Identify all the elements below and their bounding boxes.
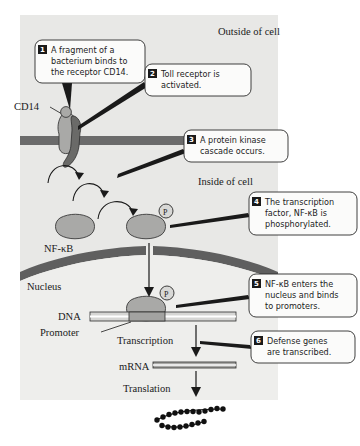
callout-5[interactable]: 5 NF-κB enters the nucleus and binds to … <box>249 274 357 317</box>
dna-label: DNA <box>58 311 81 322</box>
signaling-pathway-figure: Outside of cell Inside of cell Nucleus C… <box>0 0 360 446</box>
callout-2-number: 2 <box>150 70 155 78</box>
nfkb-label: NF-κB <box>44 243 73 254</box>
callout-2-line-1: Toll receptor is <box>160 69 220 79</box>
nucleus-label: Nucleus <box>27 281 61 292</box>
translation-label: Translation <box>123 383 171 394</box>
promoter-label: Promoter <box>40 327 80 338</box>
callout-2[interactable]: 2 Toll receptor is activated. <box>145 64 251 96</box>
callout-4-line-1: The transcription <box>264 197 334 207</box>
callout-6-number: 6 <box>256 337 261 345</box>
callout-1-line-2: bacterium binds to <box>51 56 127 66</box>
callout-3-line-2: cascade occurs. <box>200 146 265 156</box>
nfkb-protein-cytoplasm <box>56 214 95 239</box>
callout-6-line-1: Defense genes <box>267 336 327 346</box>
transcription-label: Transcription <box>117 335 174 346</box>
phosphate-label: P <box>163 208 168 217</box>
callout-4-number: 4 <box>254 198 259 206</box>
cd14-label: CD14 <box>14 101 40 112</box>
phosphate-label-nucleus: P <box>164 290 169 299</box>
callout-1[interactable]: 1 A fragment of a bacterium binds to the… <box>35 40 145 83</box>
callout-4[interactable]: 4 The transcription factor, NF-κB is pho… <box>249 192 357 235</box>
dna-strand <box>90 312 236 321</box>
callout-6-line-2: are transcribed. <box>267 347 331 357</box>
callout-6[interactable]: 6 Defense genes are transcribed. <box>251 331 355 363</box>
mrna-label: mRNA <box>119 361 150 372</box>
callout-4-line-3: phosphorylated. <box>265 219 331 229</box>
mrna-strand <box>153 362 236 368</box>
callout-1-number: 1 <box>40 46 45 54</box>
callout-1-line-3: the receptor CD14. <box>51 67 128 77</box>
callout-2-line-2: activated. <box>161 80 201 90</box>
callout-5-number: 5 <box>254 280 259 288</box>
callout-5-line-1: NF-κB enters the <box>265 279 333 289</box>
callout-3[interactable]: 3 A protein kinase cascade occurs. <box>184 130 288 162</box>
callout-1-line-1: A fragment of a <box>51 45 114 55</box>
callout-5-line-2: nucleus and binds <box>265 290 339 300</box>
callout-3-number: 3 <box>189 136 194 144</box>
outside-of-cell-label: Outside of cell <box>218 26 280 37</box>
inside-of-cell-label: Inside of cell <box>198 176 253 187</box>
callout-5-line-3: to promoters. <box>265 301 320 311</box>
callout-3-line-1: A protein kinase <box>200 135 266 145</box>
promoter-region <box>129 312 165 321</box>
callout-4-line-2: factor, NF-κB is <box>265 208 327 218</box>
